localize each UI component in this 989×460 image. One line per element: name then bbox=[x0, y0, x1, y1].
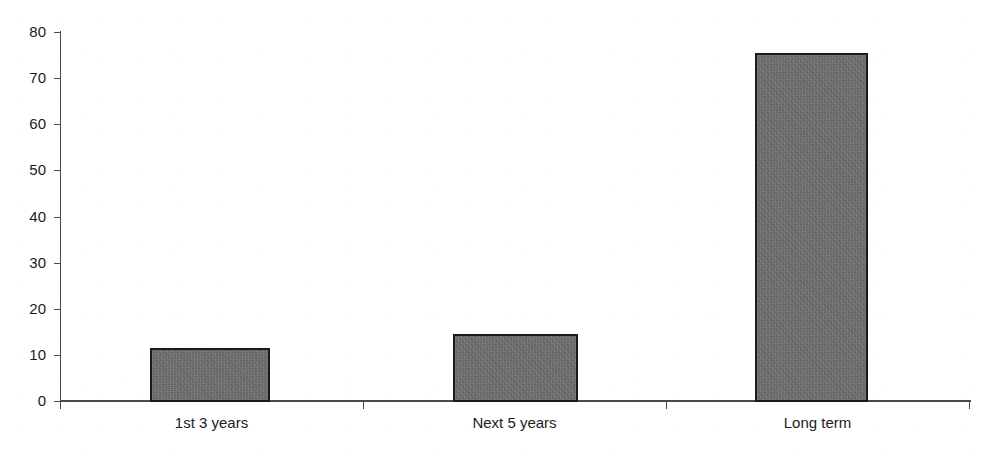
y-axis-tick bbox=[54, 355, 61, 356]
y-axis-tick-label: 0 bbox=[0, 393, 46, 408]
x-axis-category-label: Next 5 years bbox=[363, 414, 666, 432]
bar bbox=[453, 334, 578, 402]
bar bbox=[150, 348, 270, 402]
y-axis-tick bbox=[54, 78, 61, 79]
y-axis-tick-label: 10 bbox=[0, 347, 46, 362]
x-axis-tick bbox=[666, 401, 667, 409]
y-axis-tick-label: 80 bbox=[0, 24, 46, 39]
y-axis-tick bbox=[54, 263, 61, 264]
y-axis-tick-label: 40 bbox=[0, 209, 46, 224]
x-axis-tick bbox=[60, 401, 61, 409]
bar bbox=[755, 53, 868, 402]
y-axis-tick-label: 20 bbox=[0, 301, 46, 316]
y-axis-tick bbox=[54, 124, 61, 125]
bar-chart: 01020304050607080 1st 3 yearsNext 5 year… bbox=[0, 0, 989, 460]
x-axis-tick bbox=[363, 401, 364, 409]
y-axis-tick bbox=[54, 32, 61, 33]
y-axis-tick bbox=[54, 170, 61, 171]
x-axis-category-label: Long term bbox=[666, 414, 969, 432]
y-axis-tick-label: 30 bbox=[0, 255, 46, 270]
y-axis-tick-label: 50 bbox=[0, 162, 46, 177]
x-axis-tick bbox=[969, 401, 970, 409]
y-axis-tick bbox=[54, 217, 61, 218]
y-axis-tick-label: 60 bbox=[0, 116, 46, 131]
y-axis-tick bbox=[54, 309, 61, 310]
x-axis-category-label: 1st 3 years bbox=[60, 414, 363, 432]
y-axis-tick-label: 70 bbox=[0, 70, 46, 85]
